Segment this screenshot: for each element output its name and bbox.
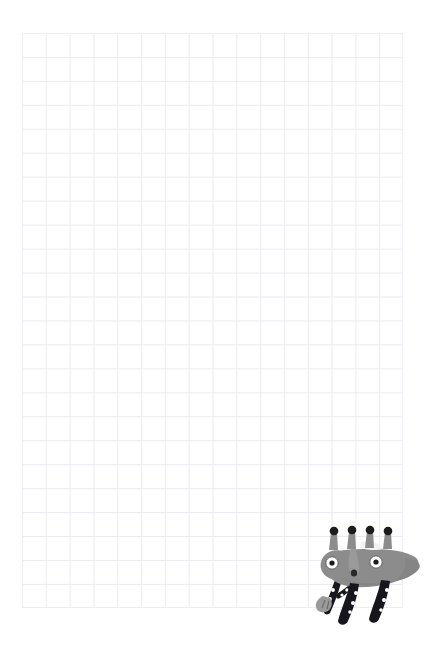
creature-eye-right	[370, 556, 382, 568]
page-canvas	[0, 0, 445, 655]
creature-leg-front-right	[338, 583, 359, 625]
creature-eye-left	[326, 557, 338, 569]
creature-sketch	[305, 518, 427, 633]
